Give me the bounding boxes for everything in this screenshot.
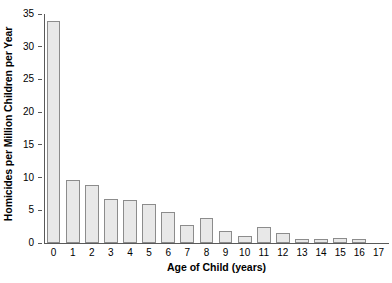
bar-chart-figure: Homicides per Million Children per Year … [0, 0, 392, 283]
bar [352, 239, 366, 243]
bar [295, 239, 309, 243]
bar [257, 227, 271, 243]
y-tick-label: 35 [0, 7, 34, 21]
x-axis-line [44, 243, 389, 244]
y-tick-mark [38, 177, 42, 178]
y-tick-mark [38, 79, 42, 80]
bar [47, 21, 61, 243]
bar [66, 180, 80, 243]
plot-area [44, 14, 388, 243]
y-tick-label: 15 [0, 138, 34, 152]
y-tick-mark [38, 14, 42, 15]
y-tick-mark [38, 144, 42, 145]
bar [123, 200, 137, 243]
bar [219, 231, 233, 243]
y-tick-mark [38, 112, 42, 113]
bar [161, 212, 175, 243]
y-tick-label: 25 [0, 72, 34, 86]
y-tick-label: 10 [0, 171, 34, 185]
y-tick-mark [38, 46, 42, 47]
bar [142, 204, 156, 243]
x-tick-label: 17 [366, 246, 390, 259]
y-tick-label: 30 [0, 40, 34, 54]
y-tick-mark [38, 243, 42, 244]
y-tick-label: 20 [0, 105, 34, 119]
bar [276, 233, 290, 243]
bar [200, 218, 214, 243]
bar [333, 238, 347, 243]
y-axis-title-text: Homicides per Million Children per Year [2, 26, 14, 220]
x-axis-title: Age of Child (years) [44, 261, 389, 273]
bar [314, 239, 328, 243]
bar [180, 225, 194, 243]
y-tick-label: 5 [0, 203, 34, 217]
y-tick-label: 0 [0, 236, 34, 250]
bar [104, 199, 118, 243]
bar [238, 236, 252, 243]
y-tick-mark [38, 210, 42, 211]
bar [85, 185, 99, 243]
